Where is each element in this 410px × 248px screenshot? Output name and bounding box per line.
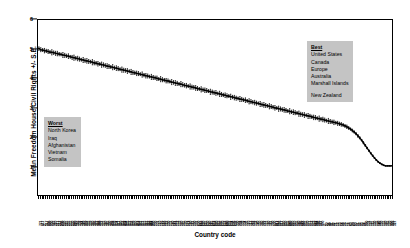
x-axis-tick-mark	[47, 196, 48, 199]
x-axis-tick-mark	[77, 196, 78, 199]
x-axis-tick-mark	[73, 196, 74, 199]
x-axis-tick-mark	[255, 196, 256, 199]
x-axis-tick-mark	[62, 196, 63, 199]
x-axis-tick-mark	[166, 196, 167, 199]
x-axis-tick-mark	[288, 196, 289, 199]
x-axis-tick-mark	[296, 196, 297, 199]
worst-annotation-header: Worst	[48, 120, 76, 127]
x-axis-tick-mark	[203, 196, 204, 199]
x-axis-tick-mark	[231, 196, 232, 199]
y-axis-tick-label: 3	[20, 105, 33, 111]
x-axis-title: Country code	[37, 231, 393, 238]
x-axis-tick-mark	[49, 196, 50, 199]
x-axis-tick-mark	[125, 196, 126, 199]
x-axis-tick-mark	[42, 196, 43, 199]
x-axis-tick-mark	[331, 196, 332, 199]
x-axis-tick-mark	[299, 196, 300, 199]
y-axis-tick-label: 1	[20, 164, 33, 170]
best-annotation-item: Europe	[311, 66, 348, 73]
x-axis-tick-mark	[275, 196, 276, 199]
x-axis-tick-mark	[82, 196, 83, 199]
x-axis-tick-mark	[229, 196, 230, 199]
x-axis-tick-mark	[94, 196, 95, 199]
x-axis-tick-mark	[388, 196, 389, 199]
x-axis-tick-mark	[290, 196, 291, 199]
x-axis-tick-mark	[114, 196, 115, 199]
x-axis-tick-mark	[181, 196, 182, 199]
x-axis-tick-mark	[273, 196, 274, 199]
x-axis-tick-mark	[379, 196, 380, 199]
x-axis-tick-mark	[218, 196, 219, 199]
x-axis-tick-mark	[101, 196, 102, 199]
x-axis-tick-mark	[309, 196, 310, 199]
x-axis-tick-mark	[155, 196, 156, 199]
x-axis-tick-mark	[314, 196, 315, 199]
y-axis-tick-label: 5	[20, 46, 33, 52]
x-axis-tick-mark	[45, 196, 46, 199]
x-axis-tick-mark	[318, 196, 319, 199]
x-axis-tick-mark	[105, 196, 106, 199]
x-axis-tick-mark	[88, 196, 89, 199]
x-axis-tick-mark	[142, 196, 143, 199]
y-axis-tick-label: 2	[20, 134, 33, 140]
y-axis-tick-label: 4	[20, 75, 33, 81]
x-axis-tick-mark	[253, 196, 254, 199]
x-axis-tick-mark	[183, 196, 184, 199]
x-axis-tick-mark	[338, 196, 339, 199]
x-axis-tick-mark	[377, 196, 378, 199]
x-axis-tick-mark	[325, 196, 326, 199]
x-axis-tick-mark	[56, 196, 57, 199]
x-axis-tick-mark	[173, 196, 174, 199]
x-axis-tick-mark	[197, 196, 198, 199]
chart-figure: Mean Freedom House Civil Rights +/- S.E.…	[0, 0, 410, 248]
x-axis-tick-labels: 7714112317305920900983210211212205200220…	[37, 200, 393, 228]
x-axis-tick-mark	[136, 196, 137, 199]
x-axis-tick-mark	[51, 196, 52, 199]
x-axis-tick-mark	[264, 196, 265, 199]
x-axis-tick-mark	[216, 196, 217, 199]
x-axis-tick-mark	[60, 196, 61, 199]
x-axis-tick-label: 327	[393, 221, 397, 226]
x-axis-tick-mark	[292, 196, 293, 199]
x-axis-tick-mark	[149, 196, 150, 199]
x-axis-tick-mark	[307, 196, 308, 199]
x-axis-tick-mark	[92, 196, 93, 199]
x-axis-tick-mark	[201, 196, 202, 199]
x-axis-tick-mark	[368, 196, 369, 199]
x-axis-tick-mark	[123, 196, 124, 199]
x-axis-tick-mark	[108, 196, 109, 199]
x-axis-tick-mark	[170, 196, 171, 199]
x-axis-tick-mark	[110, 196, 111, 199]
x-axis-tick-mark	[349, 196, 350, 199]
x-axis-tick-mark	[323, 196, 324, 199]
x-axis-tick-mark	[223, 196, 224, 199]
x-axis-tick-mark	[205, 196, 206, 199]
x-axis-tick-mark	[336, 196, 337, 199]
x-axis-tick-mark	[286, 196, 287, 199]
x-axis-tick-mark	[359, 196, 360, 199]
x-axis-tick-mark	[244, 196, 245, 199]
x-axis-tick-mark	[55, 196, 56, 199]
x-axis-tick-mark	[38, 196, 39, 199]
x-axis-tick-mark	[383, 196, 384, 199]
x-axis-tick-mark	[351, 196, 352, 199]
x-axis-tick-mark	[160, 196, 161, 199]
x-axis-tick-mark	[240, 196, 241, 199]
x-axis-tick-mark	[294, 196, 295, 199]
best-annotation-item: Marshall Islands	[311, 80, 348, 87]
x-axis-tick-mark	[298, 196, 299, 199]
x-axis-tick-mark	[262, 196, 263, 199]
best-annotation-item: New Zealand	[311, 92, 348, 99]
x-axis-tick-mark	[272, 196, 273, 199]
x-axis-tick-mark	[285, 196, 286, 199]
x-axis-tick-mark	[40, 196, 41, 199]
x-axis-tick-mark	[233, 196, 234, 199]
x-axis-tick-mark	[120, 196, 121, 199]
x-axis-tick-mark	[81, 196, 82, 199]
x-axis-tick-mark	[353, 196, 354, 199]
x-axis-tick-mark	[75, 196, 76, 199]
x-axis-tick-mark	[320, 196, 321, 199]
x-axis-tick-mark	[196, 196, 197, 199]
x-axis-tick-mark	[392, 196, 393, 199]
x-axis-tick-mark	[116, 196, 117, 199]
